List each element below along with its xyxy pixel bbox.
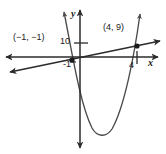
x-axis-label: x: [148, 58, 153, 68]
tick-label-y-10: 10: [60, 37, 70, 46]
tick-label-x-4: 4: [129, 61, 134, 70]
graph-canvas: [0, 0, 166, 154]
graph-figure: (−1, −1) (4, 9) 10 4 -1 y x: [0, 0, 166, 154]
point-marker-4-9: [134, 43, 139, 48]
figure-background: [0, 0, 166, 154]
point-label-4-9: (4, 9): [103, 23, 124, 32]
y-axis-label: y: [71, 9, 75, 19]
tick-label-y-neg1: -1: [63, 60, 71, 69]
point-label-neg1-neg1: (−1, −1): [13, 33, 45, 42]
